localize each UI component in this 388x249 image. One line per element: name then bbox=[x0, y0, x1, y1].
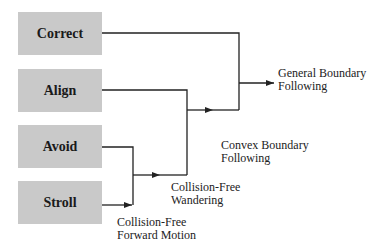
label-line: Forward Motion bbox=[117, 229, 196, 242]
behavior-box-stroll: Stroll bbox=[18, 181, 102, 224]
label-line: Following bbox=[221, 152, 309, 165]
label-forward-motion: Collision-Free Forward Motion bbox=[117, 216, 196, 242]
label-convex-boundary: Convex Boundary Following bbox=[221, 139, 309, 165]
label-wandering: Collision-Free Wandering bbox=[171, 181, 240, 207]
behavior-box-align: Align bbox=[18, 69, 102, 112]
behavior-box-correct: Correct bbox=[18, 12, 102, 55]
label-line: Following bbox=[278, 80, 366, 93]
behavior-box-avoid: Avoid bbox=[18, 125, 102, 168]
behavior-composition-diagram: Correct Align Avoid Stroll Collision-Fre… bbox=[0, 0, 388, 249]
label-general-boundary: General Boundary Following bbox=[278, 67, 366, 93]
label-line: Wandering bbox=[171, 194, 240, 207]
